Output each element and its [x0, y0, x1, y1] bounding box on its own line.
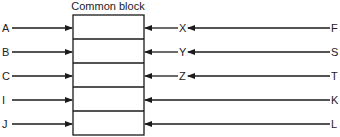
connection-row: CZT	[2, 70, 338, 82]
diagram-title: Common block	[71, 0, 145, 12]
right-source-label: L	[331, 118, 337, 130]
connection-row: IK	[2, 94, 339, 106]
connection-row: BYS	[2, 46, 338, 58]
common-block	[73, 15, 144, 135]
left-input-label: J	[2, 118, 8, 130]
middle-label: Y	[179, 46, 187, 58]
common-block-diagram: Common block AXFBYSCZTIKJL	[0, 0, 340, 137]
right-source-label: T	[331, 70, 338, 82]
connection-rows: AXFBYSCZTIKJL	[2, 22, 339, 130]
block-outline	[73, 15, 144, 135]
middle-label: X	[179, 22, 187, 34]
left-input-label: A	[2, 22, 10, 34]
right-source-label: F	[331, 22, 338, 34]
left-input-label: C	[2, 70, 10, 82]
right-source-label: S	[331, 46, 338, 58]
connection-row: AXF	[2, 22, 338, 34]
middle-label: Z	[179, 70, 186, 82]
left-input-label: I	[2, 94, 5, 106]
connection-row: JL	[2, 118, 337, 130]
left-input-label: B	[2, 46, 9, 58]
right-source-label: K	[331, 94, 339, 106]
